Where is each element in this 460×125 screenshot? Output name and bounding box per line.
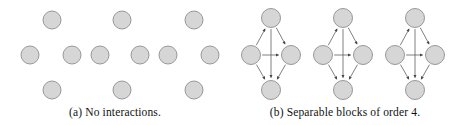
graph-node <box>185 81 203 99</box>
panel-a-caption-label: (a) <box>69 106 82 118</box>
figure-container: (a)No interactions. (b)Separable blocks … <box>0 0 460 125</box>
panel-b-caption: (b)Separable blocks of order 4. <box>230 106 460 119</box>
panel-a-caption: (a)No interactions. <box>0 106 230 119</box>
graph-node <box>113 81 131 99</box>
graph-node <box>185 11 203 29</box>
directed-edge <box>256 29 265 45</box>
graph-node <box>43 11 61 29</box>
graph-node <box>406 81 425 100</box>
directed-edge <box>401 65 409 80</box>
directed-edge <box>257 65 265 80</box>
directed-edge <box>328 29 337 45</box>
directed-edge <box>421 65 429 80</box>
directed-edge <box>420 28 429 44</box>
graph-node <box>262 9 281 28</box>
graph-node <box>406 9 425 28</box>
separable-block <box>242 9 301 100</box>
directed-edge <box>400 29 409 45</box>
graph-node <box>314 46 333 65</box>
separable-block <box>314 9 373 100</box>
graph-node <box>262 81 281 100</box>
graph-node <box>131 46 149 64</box>
graph-node <box>113 11 131 29</box>
graph-node <box>43 81 61 99</box>
directed-edge <box>348 28 357 44</box>
graph-node <box>334 9 353 28</box>
directed-edge <box>349 65 357 80</box>
graph-node <box>282 46 301 65</box>
graph-node <box>354 46 373 65</box>
panel-a-no-interactions: (a)No interactions. <box>0 0 230 125</box>
directed-edge <box>329 65 337 80</box>
graph-node <box>201 46 219 64</box>
graph-node <box>91 46 109 64</box>
directed-edge <box>277 65 285 80</box>
panel-a-graph <box>0 0 230 104</box>
panel-b-separable-blocks: (b)Separable blocks of order 4. <box>230 0 460 125</box>
panel-b-caption-text: Separable blocks of order 4. <box>287 106 421 118</box>
panel-b-caption-label: (b) <box>270 106 284 118</box>
panel-b-graph <box>230 0 460 104</box>
graph-node <box>386 46 405 65</box>
graph-node <box>63 46 81 64</box>
panel-a-caption-text: No interactions. <box>85 106 161 118</box>
graph-node <box>242 46 261 65</box>
graph-node <box>334 81 353 100</box>
graph-node <box>426 46 445 65</box>
separable-block <box>386 9 445 100</box>
graph-node <box>21 46 39 64</box>
directed-edge <box>276 28 285 44</box>
graph-node <box>159 46 177 64</box>
